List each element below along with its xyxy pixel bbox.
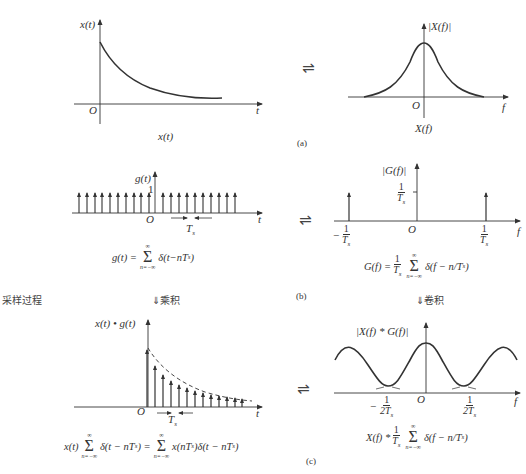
panel-c-time-xlabel: t (256, 407, 259, 419)
panel-c-time-axes (74, 320, 262, 407)
convolution-operation-label: ⇓卷积 (416, 292, 444, 307)
panel-c-freq-formula: X(f) * 1Ts ∞Σn=−∞ δ(f − n/Ts) (366, 423, 468, 451)
panel-c-right-tick: 12Ts (463, 395, 476, 420)
panel-b-freq-xlabel: f (517, 225, 520, 237)
panel-b-freq-formula: G(f) = 1Ts ∞Σn=−∞ δ(f − n/Ts) (364, 252, 469, 280)
panel-c-freq-origin: O (417, 393, 425, 405)
panel-b-freq-ylabel: |G(f)| (382, 164, 406, 176)
impulse-train (79, 193, 235, 213)
panel-a-tag: (a) (297, 138, 307, 148)
panel-a-freq-ylabel: |X(f)| (428, 20, 451, 32)
spectral-impulses (349, 193, 486, 221)
panel-b-left-tick: 1Ts (342, 224, 350, 249)
fourier-pair-symbol-a: ⇌ (302, 59, 315, 77)
panel-a-time-ylabel: x(t) (80, 18, 95, 30)
panel-b-time-axes (72, 172, 262, 213)
panel-c-period-label: Ts (168, 413, 177, 428)
panel-a-time-origin: O (89, 104, 97, 116)
panel-c-freq-xlabel: f (514, 395, 517, 407)
exponential-decay-curve (100, 42, 222, 98)
summation-symbol: ∞Σn=−∞ (407, 252, 422, 280)
multiplication-operation-label: ⇓乘积 (152, 292, 180, 307)
panel-a-freq-origin: O (412, 99, 420, 111)
summation-symbol: ∞Σn=−∞ (406, 423, 421, 451)
sampled-impulses (147, 350, 242, 407)
panel-c-time-formula: x(t) ∞Σn=−∞ δ(t − nTs) = ∞Σn=−∞ x(nTs)δ(… (64, 432, 238, 460)
panel-b-time-xlabel: t (258, 213, 261, 225)
panel-c-tag: (c) (306, 456, 316, 466)
fourier-pair-symbol-b: ⇌ (299, 211, 312, 229)
panel-b-time-formula: g(t) = ∞Σn=−∞ δ(t−nTs) (112, 243, 194, 271)
panel-c-time-origin: O (137, 405, 145, 417)
panel-b-time-origin: O (146, 213, 154, 225)
fourier-pair-symbol-c: ⇌ (297, 380, 310, 398)
panel-c-left-tick-sign: − (370, 400, 376, 412)
summation-symbol: ∞Σn=−∞ (140, 243, 155, 271)
panel-b-freq-origin: O (408, 223, 416, 235)
sampling-process-label: 采样过程 (2, 292, 42, 307)
panel-b-right-tick: 1Ts (480, 224, 488, 249)
sampling-diagram-graphics (0, 0, 526, 474)
panel-a-time-axes (74, 20, 262, 124)
panel-a-time-caption: x(t) (158, 130, 173, 142)
panel-b-height-fraction: 1Ts (397, 182, 405, 207)
panel-b-freq-axes (334, 164, 520, 221)
panel-a-freq-axes (348, 24, 508, 118)
panel-c-freq-ylabel: |X(f) * G(f)| (356, 325, 408, 337)
summation-symbol: ∞Σn=−∞ (154, 432, 169, 460)
panel-b-period-label: Ts (186, 222, 195, 237)
panel-c-left-tick: 12Ts (380, 395, 393, 420)
panel-a-freq-xlabel: f (502, 101, 505, 113)
panel-a-time-xlabel: t (256, 104, 259, 116)
panel-a-freq-caption: X(f) (415, 122, 432, 134)
panel-b-unit-mark: 1 (148, 183, 154, 195)
panel-c-time-ylabel: x(t) • g(t) (95, 317, 136, 329)
summation-symbol: ∞Σn=−∞ (82, 432, 97, 460)
panel-b-tag: (b) (296, 291, 307, 301)
panel-b-left-tick-sign: − (333, 229, 339, 241)
